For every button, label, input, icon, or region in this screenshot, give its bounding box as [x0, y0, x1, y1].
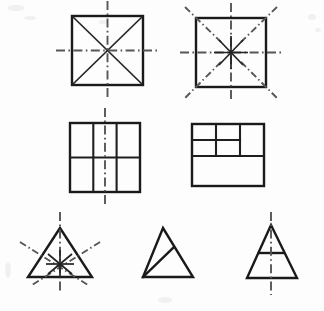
figure-triangle-scalene: [143, 228, 193, 277]
symmetry-axis-diagonal-ne-sw-lower: [185, 62, 221, 98]
figure-square-diagonals: [56, 1, 160, 100]
figure-triangle-isosceles: [247, 212, 297, 295]
symmetry-axis-diagonal-nw-se-upper: [185, 7, 221, 42]
triangle-outline: [247, 225, 297, 278]
triangle-internal-line: [143, 248, 173, 277]
figure-triangle-equilateral: [20, 212, 100, 292]
figure-square-four-axes: [180, 3, 283, 102]
figure-square-grid-3x2: [70, 108, 140, 207]
symmetry-axis-diagonal-ne-sw-upper: [241, 7, 277, 42]
diagram-canvas: [0, 0, 324, 311]
symmetry-figures-svg: [0, 0, 324, 311]
figure-square-asymmetric: [192, 124, 264, 186]
symmetry-axis-diagonal-nw-se-lower: [241, 62, 277, 98]
